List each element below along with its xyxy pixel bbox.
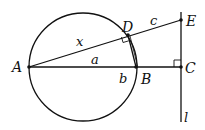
point-B xyxy=(134,65,138,69)
label-a: a xyxy=(91,52,99,67)
label-A: A xyxy=(10,59,22,75)
label-b: b xyxy=(119,71,127,86)
segment-DB-inner xyxy=(130,36,138,66)
label-E: E xyxy=(185,13,196,29)
label-l: l xyxy=(184,110,188,125)
segment-AE xyxy=(29,20,181,67)
label-x: x xyxy=(76,34,84,49)
label-c: c xyxy=(150,13,158,28)
label-D: D xyxy=(121,19,133,35)
label-B: B xyxy=(140,71,151,87)
label-C: C xyxy=(185,60,196,76)
point-E xyxy=(179,18,183,22)
point-C xyxy=(179,65,183,69)
point-A xyxy=(27,65,31,69)
geometry-diagram: A B C D E x a b c l xyxy=(0,0,205,130)
